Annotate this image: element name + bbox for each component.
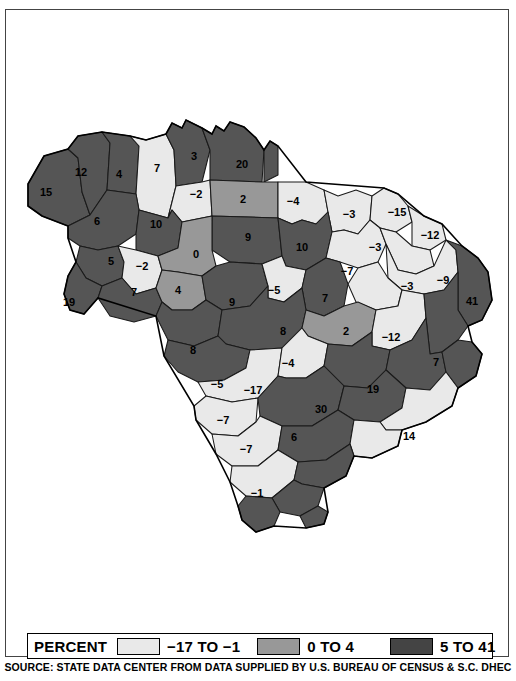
county-value-label: −12 (421, 229, 440, 241)
county-value-label: 7 (154, 162, 160, 174)
legend-label-high: 5 TO 41 (433, 638, 495, 655)
county-value-label: 12 (75, 166, 87, 178)
legend-swatch-low (117, 638, 160, 655)
south-carolina-map-svg: 151247320−22−4−3−15610910−3−125−20−7−3−9… (6, 10, 508, 610)
county-value-label: −15 (388, 206, 407, 218)
county-value-label: −3 (369, 241, 382, 253)
county-shape (278, 182, 328, 224)
county-value-label: −7 (217, 414, 230, 426)
county-value-label: 9 (245, 231, 251, 243)
county-value-label: −12 (382, 331, 401, 343)
legend-entry-high: 5 TO 41 (390, 638, 495, 655)
legend-entry-low: −17 TO −1 (117, 638, 240, 655)
county-shapes-group (28, 120, 492, 532)
county-value-label: −2 (190, 188, 203, 200)
county-value-label: −5 (268, 284, 281, 296)
county-value-label: −3 (401, 280, 414, 292)
county-value-label: 2 (240, 193, 246, 205)
county-value-label: 7 (131, 286, 137, 298)
map-page: 151247320−22−4−3−15610910−3−125−20−7−3−9… (0, 0, 516, 681)
county-value-label: 4 (116, 168, 123, 180)
county-value-label: −7 (240, 443, 253, 455)
county-value-label: 8 (190, 344, 196, 356)
county-value-label: −7 (341, 265, 354, 277)
county-value-label: 4 (175, 284, 182, 296)
county-value-label: 6 (94, 215, 100, 227)
county-value-label: −2 (136, 260, 149, 272)
map-frame: 151247320−22−4−3−15610910−3−125−20−7−3−9… (5, 9, 509, 657)
county-value-label: −3 (343, 208, 356, 220)
county-value-label: 19 (367, 383, 379, 395)
county-value-label: 2 (343, 325, 349, 337)
county-value-label: 15 (40, 186, 52, 198)
county-value-label: 30 (315, 403, 327, 415)
legend-swatch-mid (257, 638, 300, 655)
county-value-label: 8 (280, 325, 286, 337)
county-value-label: −5 (211, 378, 224, 390)
county-value-label: −4 (282, 357, 295, 369)
county-value-label: −9 (437, 274, 450, 286)
county-value-label: 9 (229, 296, 235, 308)
legend-swatch-high (390, 638, 433, 655)
county-value-label: 6 (291, 431, 297, 443)
county-value-label: 5 (108, 255, 114, 267)
county-value-label: 7 (433, 356, 439, 368)
choropleth-map: 151247320−22−4−3−15610910−3−125−20−7−3−9… (6, 10, 508, 610)
county-value-label: −1 (251, 487, 264, 499)
legend-label-mid: 0 TO 4 (300, 638, 354, 655)
county-value-label: 7 (322, 292, 328, 304)
county-value-label: 0 (193, 248, 199, 260)
county-value-label: 10 (296, 241, 308, 253)
county-value-label: −17 (244, 384, 263, 396)
county-value-label: 41 (466, 295, 478, 307)
legend: PERCENT −17 TO −1 0 TO 4 5 TO 41 (27, 633, 493, 659)
county-shape (202, 122, 264, 182)
county-value-label: 10 (150, 218, 162, 230)
county-value-label: 14 (403, 430, 416, 442)
source-attribution: SOURCE: STATE DATA CENTER FROM DATA SUPP… (0, 661, 516, 673)
legend-entry-mid: 0 TO 4 (257, 638, 354, 655)
county-value-label: 19 (63, 296, 75, 308)
legend-title: PERCENT (28, 638, 117, 655)
legend-label-low: −17 TO −1 (160, 638, 240, 655)
county-value-label: 3 (191, 150, 197, 162)
county-value-label: −4 (287, 195, 300, 207)
county-value-label: 20 (236, 158, 248, 170)
